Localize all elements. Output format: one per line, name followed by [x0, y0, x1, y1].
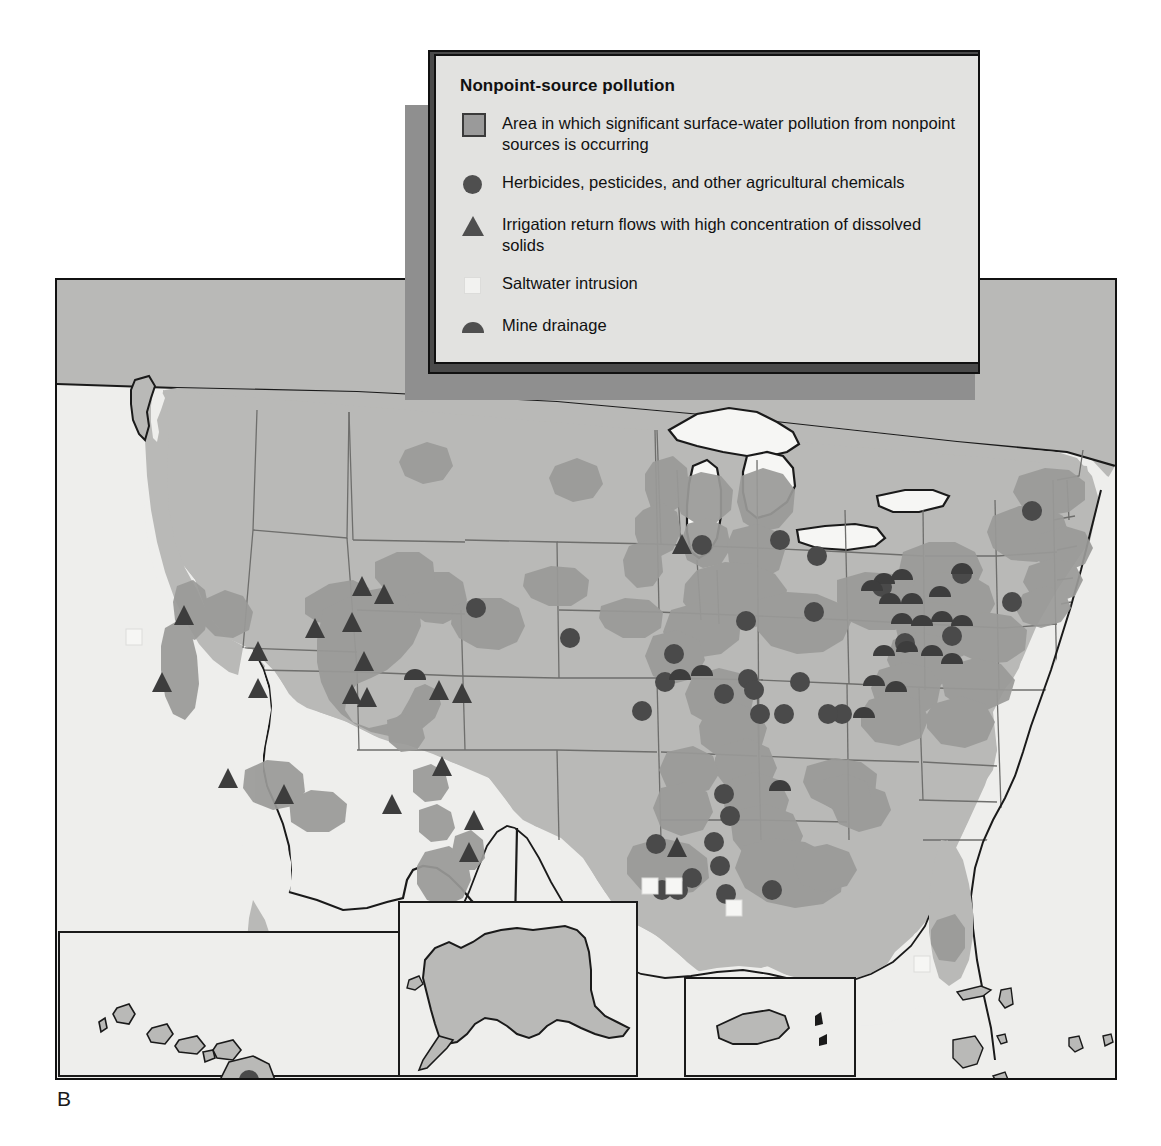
- legend-title: Nonpoint-source pollution: [460, 76, 960, 96]
- figure-panel: Nonpoint-source pollution Area in which …: [0, 0, 1161, 1146]
- legend-panel: Nonpoint-source pollution Area in which …: [434, 54, 980, 364]
- legend-item-irrigation: Irrigation return flows with high concen…: [460, 213, 960, 256]
- inset-alaska: [399, 902, 637, 1076]
- panel-label: B: [57, 1087, 71, 1111]
- circle-marker-icon: [460, 171, 494, 197]
- half-circle-marker-icon: [460, 314, 494, 340]
- legend-item-saltwater: Saltwater intrusion: [460, 272, 960, 298]
- legend-item-mine-drainage-label: Mine drainage: [502, 314, 607, 336]
- legend-item-irrigation-label: Irrigation return flows with high concen…: [502, 213, 960, 256]
- white-square-marker-icon: [460, 272, 494, 298]
- legend-item-area-label: Area in which significant surface-water …: [502, 112, 960, 155]
- inset-hawaii: [59, 932, 399, 1078]
- legend-item-saltwater-label: Saltwater intrusion: [502, 272, 638, 294]
- legend-item-area: Area in which significant surface-water …: [460, 112, 960, 155]
- legend-item-mine-drainage: Mine drainage: [460, 314, 960, 340]
- triangle-marker-icon: [460, 213, 494, 239]
- inset-puerto-rico: [685, 978, 855, 1076]
- legend-item-herbicides-label: Herbicides, pesticides, and other agricu…: [502, 171, 905, 193]
- legend-item-herbicides: Herbicides, pesticides, and other agricu…: [460, 171, 960, 197]
- area-swatch-icon: [460, 112, 494, 138]
